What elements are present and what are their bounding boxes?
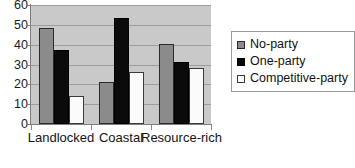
y-axis-tick [26,104,31,105]
chart-legend: No-party One-party Competitive-party [231,31,355,92]
x-axis-line [30,124,212,125]
legend-label-competitive-party: Competitive-party [250,72,348,85]
x-axis-tick [91,125,92,130]
bar [174,62,189,124]
bar [129,72,144,124]
legend-label-no-party: No-party [250,38,298,51]
x-axis-tick [31,125,32,130]
y-axis-tick-label: 10 [2,98,28,111]
gridline [31,5,211,6]
y-axis-tick-label: 30 [2,59,28,72]
y-axis-tick [26,5,31,6]
x-axis-category-label: Resource-rich [141,131,221,144]
bar [69,96,84,124]
bar [189,68,204,124]
bar [159,44,174,124]
y-axis-tick [26,25,31,26]
bar [114,18,129,124]
y-axis-tick [26,65,31,66]
legend-label-one-party: One-party [250,55,306,68]
y-axis-tick-labels: 0102030405060 [0,0,28,130]
y-axis-tick [26,45,31,46]
legend-swatch-one-party-icon [237,58,245,66]
y-axis-tick [26,84,31,85]
legend-item-no-party: No-party [237,36,348,53]
bar [99,82,114,124]
legend-item-competitive-party: Competitive-party [237,70,348,87]
x-axis-tick [151,125,152,130]
x-axis-tick [211,125,212,130]
y-axis-tick-label: 50 [2,19,28,32]
bar [39,28,54,124]
legend-item-one-party: One-party [237,53,348,70]
legend-swatch-no-party-icon [237,41,245,49]
y-axis-tick-label: 40 [2,39,28,52]
y-axis-tick-label: 0 [2,118,28,131]
y-axis-tick-label: 60 [2,0,28,12]
bar [54,50,69,124]
y-axis-tick-label: 20 [2,78,28,91]
x-axis-category-labels: LandlockedCoastalResource-rich [0,131,215,155]
legend-swatch-competitive-party-icon [237,75,245,83]
